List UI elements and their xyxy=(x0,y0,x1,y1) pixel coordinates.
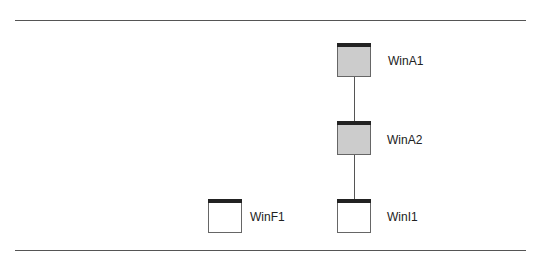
node-winf1[interactable] xyxy=(208,199,242,233)
node-label-winf1: WinF1 xyxy=(250,210,285,224)
edge-wina1-wina2 xyxy=(354,77,355,121)
node-label-wina1: WinA1 xyxy=(388,54,423,68)
node-wina1[interactable] xyxy=(337,43,371,77)
bottom-divider xyxy=(15,250,526,251)
top-divider xyxy=(15,20,526,21)
title-bar xyxy=(337,43,371,47)
title-bar xyxy=(337,199,371,203)
edge-wina2-wini1 xyxy=(354,155,355,199)
node-wini1[interactable] xyxy=(337,199,371,233)
node-label-wina2: WinA2 xyxy=(387,133,422,147)
node-label-wini1: WinI1 xyxy=(387,210,418,224)
title-bar xyxy=(337,121,371,125)
title-bar xyxy=(208,199,242,203)
node-wina2[interactable] xyxy=(337,121,371,155)
